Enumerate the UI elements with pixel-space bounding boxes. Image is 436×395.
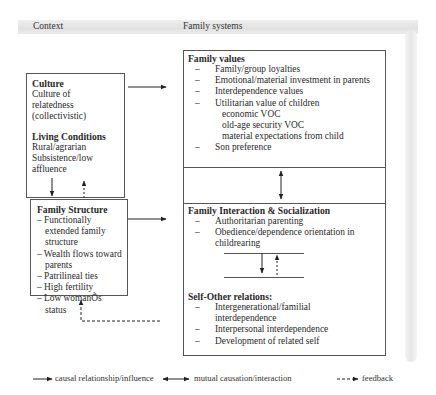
legend-mutual-label: mutual causation/interaction bbox=[194, 373, 292, 383]
feedback-arrow-self-to-structure bbox=[81, 300, 160, 321]
legend-feedback-label: feedback bbox=[362, 373, 393, 383]
diagram-arrows bbox=[0, 0, 436, 395]
legend-causal-label: causal relationship/influence bbox=[55, 373, 154, 383]
